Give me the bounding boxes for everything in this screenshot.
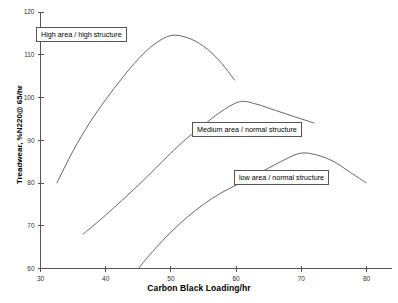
y-tick-label: 90 — [27, 137, 35, 144]
x-tick-label: 70 — [298, 275, 306, 282]
x-tick-group: 304050607080 — [37, 266, 371, 282]
axes-group — [41, 12, 393, 269]
series-curves-group — [57, 35, 367, 268]
y-tick-label: 70 — [27, 222, 35, 229]
x-tick-label: 80 — [363, 275, 371, 282]
series-label-medium-area-normal-structure: Medium area / normal structure — [192, 122, 302, 137]
x-tick-label: 30 — [37, 275, 45, 282]
series-curve — [57, 35, 235, 183]
y-axis-title: Treadwear, %N220@ 65/hr — [15, 50, 24, 220]
x-tick-label: 50 — [167, 275, 175, 282]
chart-container: 60708090100110120 304050607080 High area… — [0, 0, 398, 303]
y-tick-label: 110 — [24, 51, 35, 58]
y-tick-label: 120 — [24, 8, 35, 15]
chart-plot-area: 60708090100110120 304050607080 — [0, 0, 398, 303]
y-tick-label: 60 — [27, 265, 35, 272]
x-axis-title: Carbon Black Loading/hr — [0, 283, 398, 293]
y-tick-label: 100 — [24, 94, 35, 101]
y-tick-label: 80 — [27, 179, 35, 186]
series-label-low-area-normal-structure: low area / normal structure — [234, 170, 329, 185]
series-label-high-area-high-structure: High area / high structure — [36, 27, 127, 42]
x-tick-label: 60 — [232, 275, 240, 282]
x-tick-label: 40 — [102, 275, 110, 282]
